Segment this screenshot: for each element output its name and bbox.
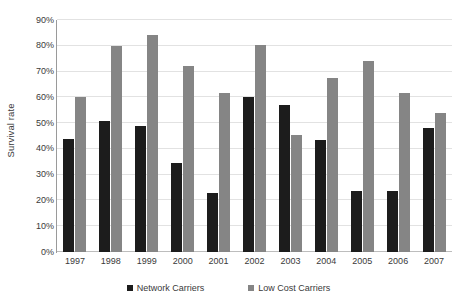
- legend-item-label: Low Cost Carriers: [258, 283, 330, 293]
- y-axis-tick-label: 60%: [18, 93, 54, 102]
- bar-low-cost-carriers-2007: [435, 113, 446, 252]
- bars-layer: [57, 20, 452, 252]
- y-axis-tick-labels: 0%10%20%30%40%50%60%70%80%90%: [18, 0, 54, 272]
- bar-network-carriers-2003: [279, 105, 290, 252]
- bar-low-cost-carriers-2003: [291, 135, 302, 252]
- bar-low-cost-carriers-2001: [219, 93, 230, 252]
- bar-network-carriers-2002: [243, 97, 254, 252]
- bar-low-cost-carriers-2005: [363, 61, 374, 252]
- bar-low-cost-carriers-2002: [255, 45, 266, 253]
- x-axis-tick-label: 1999: [129, 256, 165, 267]
- bar-low-cost-carriers-1999: [147, 35, 158, 252]
- y-axis-tick-label: 0%: [18, 248, 54, 257]
- y-axis-tick-label: 30%: [18, 170, 54, 179]
- legend-item-label: Network Carriers: [137, 283, 205, 293]
- bar-low-cost-carriers-2004: [327, 78, 338, 252]
- y-axis-tick-label: 20%: [18, 196, 54, 205]
- y-axis-tick-label: 10%: [18, 222, 54, 231]
- y-axis-title: Survival rate: [0, 0, 20, 260]
- bar-network-carriers-2001: [207, 193, 218, 252]
- x-axis-tick-label: 2002: [237, 256, 273, 267]
- legend-swatch-icon: [248, 285, 254, 291]
- y-axis-tick-label: 80%: [18, 41, 54, 50]
- legend-swatch-icon: [127, 285, 133, 291]
- x-axis-tick-label: 2007: [416, 256, 452, 267]
- x-axis-tick-labels: 1997199819992000200120022003200420052006…: [57, 256, 452, 272]
- bar-network-carriers-2006: [387, 191, 398, 252]
- legend-item-network-carriers[interactable]: Network Carriers: [127, 283, 205, 293]
- y-axis-title-label: Survival rate: [5, 103, 16, 157]
- x-axis-tick-label: 2003: [272, 256, 308, 267]
- bar-network-carriers-1999: [135, 126, 146, 252]
- chart-legend: Network CarriersLow Cost Carriers: [0, 283, 457, 293]
- bar-low-cost-carriers-2006: [399, 93, 410, 252]
- bar-chart: Survival rate 0%10%20%30%40%50%60%70%80%…: [0, 0, 457, 305]
- bar-network-carriers-1997: [63, 139, 74, 252]
- x-axis-tick-label: 2001: [201, 256, 237, 267]
- y-axis-tick-label: 70%: [18, 67, 54, 76]
- legend-item-low-cost-carriers[interactable]: Low Cost Carriers: [248, 283, 330, 293]
- bar-low-cost-carriers-1997: [75, 97, 86, 252]
- y-axis-tick-label: 40%: [18, 144, 54, 153]
- bar-network-carriers-2007: [423, 128, 434, 252]
- x-axis-tick-label: 2006: [380, 256, 416, 267]
- x-axis-tick-label: 2004: [308, 256, 344, 267]
- x-axis-tick-label: 2000: [165, 256, 201, 267]
- y-axis-tick-label: 90%: [18, 16, 54, 25]
- x-axis-tick-label: 2005: [344, 256, 380, 267]
- y-axis-tick-label: 50%: [18, 119, 54, 128]
- bar-network-carriers-2005: [351, 191, 362, 252]
- bar-low-cost-carriers-1998: [111, 46, 122, 252]
- x-axis-tick-label: 1998: [93, 256, 129, 267]
- bar-network-carriers-1998: [99, 121, 110, 252]
- bar-network-carriers-2000: [171, 163, 182, 252]
- bar-low-cost-carriers-2000: [183, 66, 194, 252]
- plot-area: [57, 20, 452, 252]
- x-axis-tick-label: 1997: [57, 256, 93, 267]
- bar-network-carriers-2004: [315, 140, 326, 252]
